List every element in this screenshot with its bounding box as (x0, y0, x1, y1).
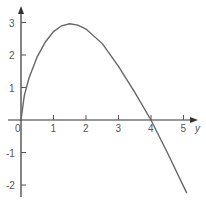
y-tick-label: 1 (9, 83, 15, 94)
y-tick-label: -1 (6, 148, 15, 159)
y-axis-arrow-icon (18, 6, 24, 14)
axes: 012345321-1-2y (6, 6, 201, 197)
x-tick-label: 2 (83, 123, 89, 134)
y-tick-label: 2 (9, 50, 15, 61)
x-tick-label: 5 (181, 123, 187, 134)
y-tick-label: 3 (9, 18, 15, 29)
x-tick-label: 0 (15, 123, 21, 134)
curve-line (21, 24, 187, 193)
y-tick-label: -2 (6, 180, 15, 191)
line-chart: 012345321-1-2y (0, 0, 206, 207)
x-tick-label: 1 (51, 123, 57, 134)
x-tick-label: 3 (116, 123, 122, 134)
x-axis-label: y (194, 123, 201, 134)
